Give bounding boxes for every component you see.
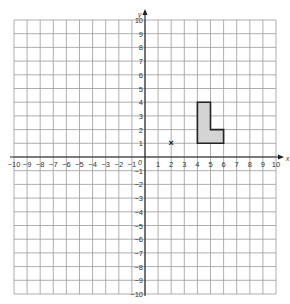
- x-tick-label: −9: [23, 160, 32, 169]
- y-tick-label: −2: [134, 180, 143, 189]
- y-tick-label: −10: [130, 290, 143, 299]
- x-tick-label: 8: [248, 160, 252, 169]
- y-tick-label: 3: [139, 112, 143, 121]
- y-tick-label: −7: [134, 249, 143, 258]
- x-tick-label: −10: [8, 160, 21, 169]
- y-tick-label: 6: [139, 71, 143, 80]
- y-tick-label: −8: [134, 263, 143, 272]
- x-tick-label: 1: [156, 160, 160, 169]
- y-tick-label: 8: [139, 43, 143, 52]
- x-axis-label: x: [285, 155, 290, 162]
- y-tick-label: 2: [139, 126, 143, 135]
- x-tick-label: 10: [272, 160, 280, 169]
- origin-label: 0: [138, 159, 142, 166]
- tick-labels: −10−9−8−7−6−5−4−3−2−11234567891010987654…: [8, 11, 290, 299]
- x-tick-label: 3: [182, 160, 186, 169]
- y-tick-label: −1: [134, 167, 143, 176]
- x-tick-label: −6: [62, 160, 71, 169]
- x-tick-label: 5: [208, 160, 212, 169]
- y-tick-label: −6: [134, 235, 143, 244]
- y-tick-label: 4: [139, 98, 143, 107]
- point-marker: ×: [169, 138, 174, 148]
- x-tick-label: −3: [101, 160, 110, 169]
- grid-canvas: −10−9−8−7−6−5−4−3−2−11234567891010987654…: [0, 0, 290, 304]
- y-tick-label: 5: [139, 85, 143, 94]
- l-shape-polygon: [197, 102, 223, 143]
- x-tick-label: 2: [169, 160, 173, 169]
- y-tick-label: 7: [139, 57, 143, 66]
- y-tick-label: 9: [139, 30, 143, 39]
- l-shape: [197, 102, 223, 143]
- x-tick-label: −8: [36, 160, 45, 169]
- x-tick-label: 4: [195, 160, 199, 169]
- x-tick-label: −4: [88, 160, 97, 169]
- y-tick-label: −4: [134, 208, 143, 217]
- coordinate-grid-diagram: −10−9−8−7−6−5−4−3−2−11234567891010987654…: [0, 0, 290, 304]
- y-tick-label: −5: [134, 222, 143, 231]
- x-tick-label: 6: [222, 160, 226, 169]
- x-tick-label: 7: [235, 160, 239, 169]
- x-tick-label: −7: [49, 160, 58, 169]
- x-axis-arrow-icon: [278, 155, 284, 160]
- y-axis-arrow-icon: [143, 9, 148, 15]
- y-tick-label: −3: [134, 194, 143, 203]
- x-tick-label: −2: [115, 160, 124, 169]
- x-tick-label: 9: [261, 160, 265, 169]
- x-tick-label: −5: [75, 160, 84, 169]
- y-tick-label: −9: [134, 276, 143, 285]
- y-tick-label: 1: [139, 139, 143, 148]
- cross-marker-icon: ×: [169, 138, 174, 148]
